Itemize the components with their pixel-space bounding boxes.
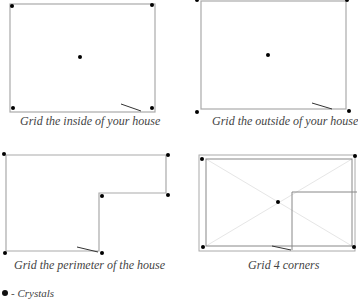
crystal-dot — [166, 193, 170, 197]
caption-perimeter: Grid the perimeter of the house — [14, 258, 165, 273]
crystal-dot — [150, 3, 154, 7]
crystal-dot — [11, 106, 15, 110]
legend: - Crystals — [2, 287, 54, 299]
door-line — [272, 246, 291, 250]
crystal-dot — [266, 53, 270, 57]
caption-outside: Grid the outside of your house — [212, 114, 358, 129]
crystal-dot — [347, 109, 351, 113]
crystal-dot — [166, 153, 170, 157]
crystal-dot — [100, 194, 104, 198]
legend-label: - Crystals — [11, 287, 54, 299]
crystal-dot — [78, 55, 82, 59]
house-outline — [6, 155, 166, 251]
crystal-dot — [353, 154, 357, 158]
panel-corners — [199, 154, 357, 251]
caption-corners: Grid 4 corners — [248, 258, 319, 273]
crystal-dot — [200, 157, 204, 161]
crystal-dot — [195, 110, 199, 114]
panel-perimeter — [2, 152, 170, 255]
panel-outside — [195, 0, 351, 114]
caption-inside: Grid the inside of your house — [20, 114, 160, 129]
door-line — [121, 104, 141, 111]
crystal-dot — [100, 251, 104, 255]
crystal-dot — [2, 152, 6, 156]
crystal-dot — [195, 0, 199, 2]
crystal-dot — [276, 200, 280, 204]
house-outline — [10, 4, 155, 112]
crystal-dot — [150, 106, 154, 110]
crystal-dot — [10, 4, 14, 8]
extension-outline — [292, 192, 357, 250]
panel-inside — [10, 3, 155, 112]
crystal-dot-icon — [2, 290, 8, 296]
crystal-dot — [352, 245, 356, 249]
house-outline — [201, 1, 346, 109]
crystal-dot — [201, 245, 205, 249]
crystal-dot — [3, 251, 7, 255]
door-line — [312, 103, 332, 109]
